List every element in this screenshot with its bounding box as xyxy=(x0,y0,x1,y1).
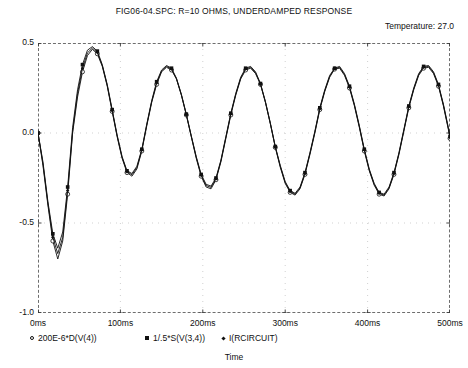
legend-item: 200E-6*D(V(4)) xyxy=(30,333,97,343)
y-tick-label: 0.5 xyxy=(0,37,34,47)
x-tick-label: 500ms xyxy=(427,318,468,328)
legend-item: 1/.5*S(V(3,4)) xyxy=(145,333,205,343)
legend-label: 1/.5*S(V(3,4)) xyxy=(153,333,205,343)
page-title: FIG06-04.SPC: R=10 OHMS, UNDERDAMPED RES… xyxy=(0,6,468,16)
spice-plot-window: FIG06-04.SPC: R=10 OHMS, UNDERDAMPED RES… xyxy=(0,0,468,368)
legend: 200E-6*D(V(4))1/.5*S(V(3,4))I(RCIRCUIT) xyxy=(0,333,468,346)
circle-open-marker xyxy=(30,336,34,340)
y-tick-label: -0.5 xyxy=(0,217,34,227)
legend-label: I(RCIRCUIT) xyxy=(229,333,278,343)
x-tick-label: 300ms xyxy=(262,318,308,328)
square-filled-marker xyxy=(145,336,149,340)
trace-diamond-dot xyxy=(38,48,450,254)
plot-area xyxy=(38,43,450,313)
y-tick-label: 0.0 xyxy=(0,127,34,137)
x-axis-title: Time xyxy=(0,352,468,362)
waveform-canvas xyxy=(38,43,450,313)
x-tick-label: 100ms xyxy=(97,318,143,328)
x-tick-label: 0ms xyxy=(15,318,61,328)
x-tick-label: 200ms xyxy=(180,318,226,328)
legend-item: I(RCIRCUIT) xyxy=(222,333,278,343)
diamond-dot-marker xyxy=(221,336,225,340)
legend-label: 200E-6*D(V(4)) xyxy=(38,333,97,343)
trace-square-filled xyxy=(38,47,450,249)
trace-circle-open xyxy=(38,49,450,259)
x-tick-label: 400ms xyxy=(345,318,391,328)
temperature-label: Temperature: 27.0 xyxy=(385,21,454,31)
y-tick-label: -1.0 xyxy=(0,307,34,317)
data-point-marker xyxy=(66,189,69,192)
